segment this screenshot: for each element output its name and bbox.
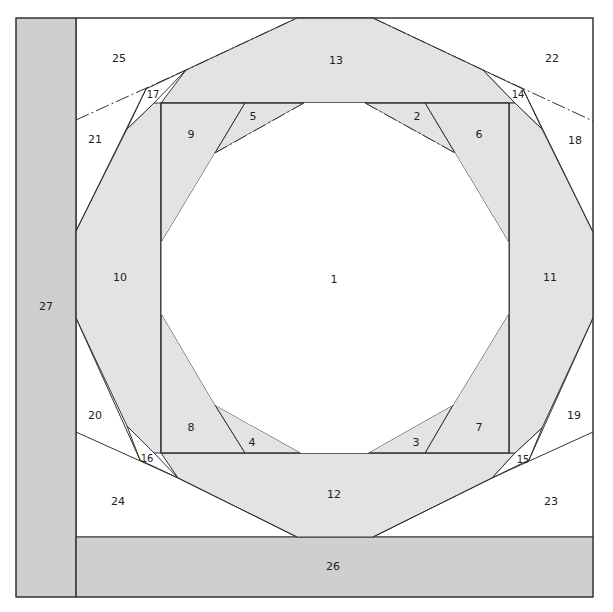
piece-label-25: 25 [112,52,126,65]
piece-label-24: 24 [111,495,125,508]
piece-label-27: 27 [39,300,53,313]
piece-label-15: 15 [517,454,530,465]
piece-label-22: 22 [545,52,559,65]
piece-label-11: 11 [543,271,557,284]
piece-label-6: 6 [476,128,483,141]
piece-label-4: 4 [249,436,256,449]
piece-label-14: 14 [512,89,525,100]
piece-label-21: 21 [88,133,102,146]
piece-label-19: 19 [567,409,581,422]
piece-label-8: 8 [188,421,195,434]
piece-label-5: 5 [250,110,257,123]
piece-label-17: 17 [147,89,160,100]
piece-label-7: 7 [476,421,483,434]
piece-label-23: 23 [544,495,558,508]
piece-label-26: 26 [326,560,340,573]
piece-label-18: 18 [568,134,582,147]
piece-label-13: 13 [329,54,343,67]
piece-label-2: 2 [414,110,421,123]
piece-label-20: 20 [88,409,102,422]
piece-label-16: 16 [141,453,154,464]
piece-label-3: 3 [413,436,420,449]
piece-label-12: 12 [327,488,341,501]
piece-label-9: 9 [188,128,195,141]
piece-label-10: 10 [113,271,127,284]
piece-label-1: 1 [331,273,338,286]
